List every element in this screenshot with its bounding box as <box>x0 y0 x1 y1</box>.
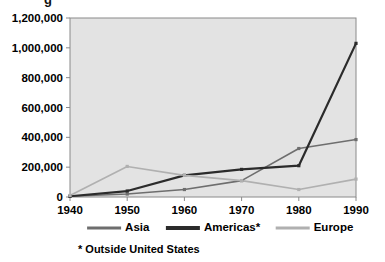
series-marker-americas <box>126 189 129 192</box>
x-axis-tick-label: 1970 <box>229 204 255 216</box>
series-marker-europe <box>354 178 357 181</box>
series-marker-asia <box>126 192 129 195</box>
series-marker-americas <box>240 168 243 171</box>
y-axis-tick-label: 1,200,000 <box>12 12 63 24</box>
legend-label-asia: Asia <box>125 221 150 233</box>
chart-figure: g 0200,000400,000600,000800,0001,000,000… <box>0 0 385 262</box>
series-marker-asia <box>183 188 186 191</box>
series-marker-europe <box>297 188 300 191</box>
series-marker-asia <box>354 138 357 141</box>
y-axis-tick-label: 0 <box>57 191 63 203</box>
legend-label-americas: Americas* <box>204 221 261 233</box>
cropped-title-fragment: g <box>44 0 52 7</box>
series-marker-europe <box>183 174 186 177</box>
plot-area-background <box>70 18 356 197</box>
x-axis-tick-label: 1940 <box>57 204 83 216</box>
y-axis-labels: 0200,000400,000600,000800,0001,000,0001,… <box>12 12 63 203</box>
chart-legend: AsiaAmericas*Europe <box>87 221 353 233</box>
y-axis-tick-label: 200,000 <box>21 161 63 173</box>
legend-label-europe: Europe <box>314 221 354 233</box>
series-marker-americas <box>297 164 300 167</box>
series-marker-europe <box>240 179 243 182</box>
y-axis-tick-marks <box>66 18 70 197</box>
y-axis-tick-label: 1,000,000 <box>12 42 63 54</box>
x-axis-tick-label: 1980 <box>286 204 312 216</box>
series-marker-americas <box>354 42 357 45</box>
x-axis-labels: 194019501960197019801990 <box>57 204 369 216</box>
series-marker-europe <box>68 194 71 197</box>
footnote-text: * Outside United States <box>78 243 200 255</box>
y-axis-tick-label: 800,000 <box>21 72 63 84</box>
series-marker-asia <box>297 147 300 150</box>
immigration-line-chart: 0200,000400,000600,000800,0001,000,0001,… <box>0 0 385 262</box>
x-axis-tick-label: 1950 <box>114 204 140 216</box>
x-axis-tick-label: 1960 <box>172 204 198 216</box>
x-axis-tick-label: 1990 <box>343 204 369 216</box>
y-axis-tick-label: 600,000 <box>21 102 63 114</box>
y-axis-tick-label: 400,000 <box>21 131 63 143</box>
series-marker-europe <box>126 165 129 168</box>
x-axis-tick-marks <box>70 197 356 201</box>
